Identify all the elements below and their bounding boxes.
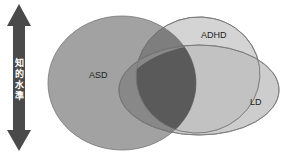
label-char: 知 bbox=[12, 58, 26, 69]
ld-label: LD bbox=[250, 97, 262, 107]
label-char: 準 bbox=[12, 91, 26, 102]
adhd-label: ADHD bbox=[201, 30, 227, 40]
intelligence-level-label: 知 的 水 準 bbox=[12, 58, 26, 102]
venn-diagram bbox=[0, 0, 289, 156]
asd-label: ASD bbox=[89, 70, 108, 80]
label-char: 的 bbox=[12, 69, 26, 80]
label-char: 水 bbox=[12, 80, 26, 91]
